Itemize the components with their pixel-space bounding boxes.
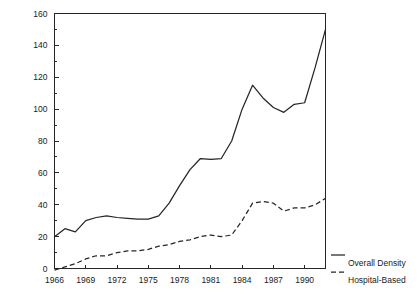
x-axis-tick-labels: 196619691972197519781981198419871990 [45, 275, 314, 285]
y-tick-label: 80 [38, 136, 48, 146]
x-tick-label: 1981 [201, 275, 220, 285]
x-axis-major-ticks [55, 265, 305, 269]
y-axis-major-ticks [55, 14, 59, 269]
chart-canvas: 020406080100120140160 196619691972197519… [0, 0, 420, 303]
y-axis-tick-labels: 020406080100120140160 [33, 9, 47, 274]
series-overall-density [55, 29, 326, 236]
x-tick-label: 1975 [139, 275, 158, 285]
line-chart: 020406080100120140160 196619691972197519… [0, 0, 420, 303]
y-tick-label: 160 [33, 9, 47, 19]
y-tick-label: 60 [38, 168, 48, 178]
chart-legend: Overall DensityHospital-Based [331, 255, 406, 285]
y-tick-label: 20 [38, 232, 48, 242]
series-hospital-based [55, 198, 326, 270]
y-tick-label: 100 [33, 104, 47, 114]
y-tick-label: 40 [38, 200, 48, 210]
x-tick-label: 1978 [170, 275, 189, 285]
y-tick-label: 140 [33, 40, 47, 50]
x-tick-label: 1972 [108, 275, 127, 285]
x-tick-label: 1984 [233, 275, 252, 285]
legend-label: Hospital-Based [348, 275, 406, 285]
y-tick-label: 0 [43, 264, 48, 274]
legend-label: Overall Density [348, 258, 406, 268]
x-tick-label: 1969 [76, 275, 95, 285]
plot-frame [55, 14, 326, 269]
y-tick-label: 120 [33, 72, 47, 82]
x-tick-label: 1990 [295, 275, 314, 285]
x-tick-label: 1966 [45, 275, 64, 285]
x-tick-label: 1987 [264, 275, 283, 285]
